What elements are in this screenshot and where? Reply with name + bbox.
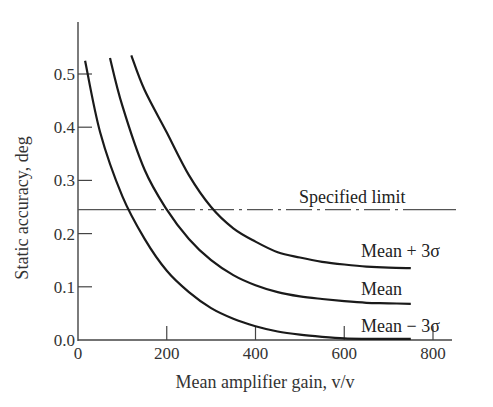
mean-plus-3sigma-label: Mean + 3σ: [361, 241, 440, 261]
y-tick-label: 0.0: [54, 331, 75, 350]
y-tick-label: 0.4: [54, 118, 76, 137]
x-tick-label: 200: [154, 344, 180, 363]
y-axis-title: Static accuracy, deg: [12, 136, 32, 279]
specified-limit-line: Specified limit: [78, 187, 456, 210]
y-tick-label: 0.2: [54, 225, 75, 244]
y-tick-label: 0.1: [54, 278, 75, 297]
x-axis-title: Mean amplifier gain, v/v: [176, 372, 355, 392]
x-tick-label: 600: [332, 344, 358, 363]
x-tick-label: 400: [243, 344, 269, 363]
x-tick-label: 0: [74, 344, 83, 363]
x-tick-label: 800: [420, 344, 446, 363]
y-tick-label: 0.3: [54, 171, 75, 190]
y-tick-label: 0.5: [54, 65, 75, 84]
mean-plus-3sigma-curve: [131, 55, 411, 268]
specified-limit-label: Specified limit: [299, 187, 405, 207]
labels: Mean + 3σMeanMean − 3σ: [361, 241, 440, 336]
mean-label: Mean: [361, 279, 402, 299]
chart: 0.00.10.20.30.40.50200400600800Mean ampl…: [0, 0, 493, 407]
axes: 0.00.10.20.30.40.50200400600800Mean ampl…: [12, 22, 452, 392]
mean-minus-3sigma-label: Mean − 3σ: [361, 316, 440, 336]
